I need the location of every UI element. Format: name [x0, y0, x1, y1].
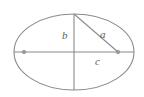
right-focus-point — [116, 50, 120, 54]
focus-to-covertex-segment-line — [74, 14, 118, 52]
left-focus-point — [22, 50, 26, 54]
label-c-focal-distance: c — [95, 56, 100, 67]
ellipse-figure — [0, 0, 144, 97]
label-b-semi-minor-axis: b — [62, 30, 68, 41]
diagram-canvas: b a c — [0, 0, 144, 97]
label-a-semi-major-axis: a — [100, 29, 106, 40]
